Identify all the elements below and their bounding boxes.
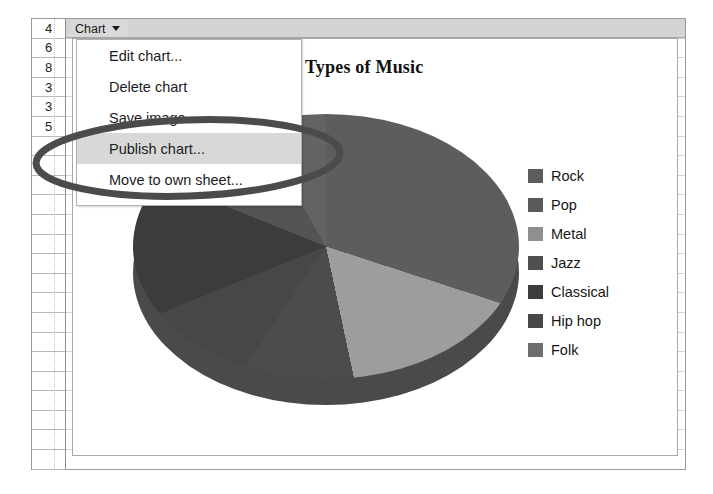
legend-color-swatch: [528, 285, 543, 299]
legend-color-swatch: [528, 169, 543, 183]
row-header-cell-empty[interactable]: [32, 195, 65, 215]
row-header-cell[interactable]: 3: [32, 78, 65, 98]
chart-toolbar: Chart: [66, 19, 685, 38]
row-header-cell[interactable]: 3: [32, 97, 65, 117]
row-header-cell-empty[interactable]: [32, 313, 65, 333]
row-header-cell-empty[interactable]: [32, 156, 65, 176]
chevron-down-icon: [112, 26, 120, 31]
row-header-cell-empty[interactable]: [32, 215, 65, 235]
legend-label: Pop: [551, 197, 577, 213]
legend-item: Jazz: [528, 248, 668, 277]
menu-item[interactable]: Edit chart...: [77, 40, 301, 71]
screenshot-root: 468335 Chart Types of Music RockPopMetal…: [0, 0, 713, 494]
chart-legend: RockPopMetalJazzClassicalHip hopFolk: [528, 161, 668, 364]
legend-item: Hip hop: [528, 306, 668, 335]
chart-title: Types of Music: [305, 57, 423, 78]
row-header-cell-empty[interactable]: [32, 137, 65, 157]
column-guide-line: [54, 19, 55, 469]
row-header-cell-empty[interactable]: [32, 274, 65, 294]
row-header-cell[interactable]: 8: [32, 58, 65, 78]
row-header-cell-empty[interactable]: [32, 333, 65, 353]
legend-label: Folk: [551, 342, 578, 358]
legend-label: Metal: [551, 226, 586, 242]
row-header-cell[interactable]: 4: [32, 19, 65, 39]
menu-item[interactable]: Publish chart...: [77, 133, 301, 164]
legend-color-swatch: [528, 256, 543, 270]
row-header-cell[interactable]: 5: [32, 117, 65, 137]
legend-label: Hip hop: [551, 313, 601, 329]
row-header-cell-empty[interactable]: [32, 391, 65, 411]
legend-color-swatch: [528, 198, 543, 212]
legend-item: Folk: [528, 335, 668, 364]
row-header-cell-empty[interactable]: [32, 352, 65, 372]
row-header-strip[interactable]: 468335: [32, 19, 66, 469]
legend-color-swatch: [528, 343, 543, 357]
chart-dropdown-menu[interactable]: Edit chart...Delete chartSave imagePubli…: [76, 39, 302, 206]
row-header-cell-empty[interactable]: [32, 372, 65, 392]
legend-item: Pop: [528, 190, 668, 219]
chart-menu-button[interactable]: Chart: [70, 20, 128, 37]
row-header-cell-empty[interactable]: [32, 450, 65, 470]
legend-item: Classical: [528, 277, 668, 306]
row-header-cell-empty[interactable]: [32, 293, 65, 313]
menu-item[interactable]: Move to own sheet...: [77, 164, 301, 195]
menu-item[interactable]: Delete chart: [77, 71, 301, 102]
legend-color-swatch: [528, 227, 543, 241]
row-header-cell[interactable]: 6: [32, 39, 65, 59]
legend-label: Rock: [551, 168, 584, 184]
row-header-cell-empty[interactable]: [32, 254, 65, 274]
legend-label: Jazz: [551, 255, 581, 271]
row-header-cell-empty[interactable]: [32, 411, 65, 431]
legend-color-swatch: [528, 314, 543, 328]
row-header-cell-empty[interactable]: [32, 176, 65, 196]
row-header-cell-empty[interactable]: [32, 235, 65, 255]
legend-label: Classical: [551, 284, 609, 300]
legend-item: Rock: [528, 161, 668, 190]
menu-item[interactable]: Save image: [77, 102, 301, 133]
legend-item: Metal: [528, 219, 668, 248]
chart-menu-button-label: Chart: [75, 22, 106, 36]
row-header-cell-empty[interactable]: [32, 430, 65, 450]
